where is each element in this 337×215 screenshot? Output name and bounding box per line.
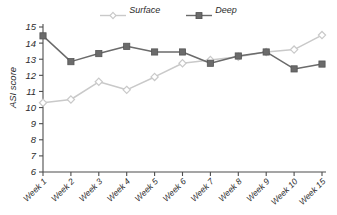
data-point-marker [318,31,325,38]
y-axis: 6789101112131415 [25,21,43,177]
x-tick-label: Week 4 [105,176,133,204]
data-point-marker [179,60,186,67]
x-tick-label: Week 1 [21,176,49,204]
y-axis-title: ASI score [7,67,18,109]
data-point-marker [123,86,130,93]
data-point-marker [179,49,185,55]
y-tick-label: 13 [25,54,36,65]
y-tick-label: 11 [26,86,36,97]
y-tick-label: 12 [25,70,36,81]
data-point-marker [95,78,102,85]
x-tick-label: Week 6 [161,176,189,204]
x-tick-label: Week 7 [188,176,216,204]
data-point-marker [124,43,130,49]
series-surface [39,31,325,106]
x-tick-label: Week 8 [216,176,244,204]
x-tick-label: Week 10 [269,176,300,207]
data-point-marker [39,99,46,106]
x-axis: Week 1Week 2Week 3Week 4Week 5Week 6Week… [21,172,328,207]
data-point-marker [207,60,213,66]
data-point-marker [96,50,102,56]
x-tick-label: Week 2 [49,176,77,204]
data-point-marker [151,73,158,80]
y-axis-label: ASI score [7,67,18,109]
x-tick-label: Week 5 [133,176,161,204]
data-series-group [39,31,325,106]
x-tick-label: Week 15 [297,176,328,207]
y-tick-label: 14 [25,38,36,49]
chart-plot-area: 6789101112131415 Week 1Week 2Week 3Week … [0,0,337,215]
data-point-marker [263,49,269,55]
data-point-marker [68,59,74,65]
y-tick-label: 6 [31,166,37,177]
y-tick-label: 9 [31,118,37,129]
data-point-marker [152,49,158,55]
data-point-marker [67,96,74,103]
data-point-marker [291,46,298,53]
y-tick-label: 8 [31,134,37,145]
y-tick-label: 10 [25,102,36,113]
x-tick-label: Week 9 [244,176,272,204]
x-tick-label: Week 3 [77,176,105,204]
data-point-marker [319,61,325,67]
data-point-marker [291,66,297,72]
y-tick-label: 7 [31,150,37,161]
data-point-marker [40,33,46,39]
y-tick-label: 15 [25,21,36,32]
data-point-marker [235,53,241,59]
asi-score-line-chart: Surface Deep 6789101112131415 Week 1Week… [0,0,337,215]
